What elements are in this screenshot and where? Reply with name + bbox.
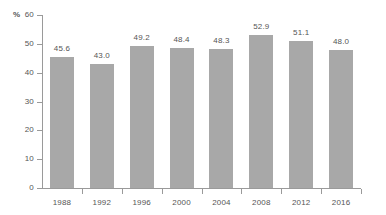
bar[interactable] [329,50,353,188]
y-axis-tick-label: 10 [4,155,34,163]
y-axis-tick-label: 40 [4,69,34,77]
bar-value-label: 48.3 [213,37,229,45]
x-axis-category-label: 2012 [292,198,311,207]
x-axis-tick [122,189,123,194]
x-axis-tick [202,189,203,194]
x-axis-category-label: 1988 [53,198,72,207]
x-axis-category-label: 2004 [212,198,231,207]
bar-value-label: 48.4 [173,36,189,44]
bar[interactable] [170,48,194,188]
bar-value-label: 45.6 [54,45,70,53]
bar-value-label: 48.0 [333,38,349,46]
bar[interactable] [209,49,233,188]
x-axis-category-label: 1992 [93,198,112,207]
plot-area: 45.643.049.248.448.352.951.148.0 [42,15,361,188]
bar[interactable] [249,35,273,188]
bar-value-label: 51.1 [293,29,309,37]
x-axis-category-label: 2016 [332,198,351,207]
x-axis-tick [321,189,322,194]
bar-value-label: 49.2 [134,34,150,42]
y-axis-tick [37,188,42,189]
x-axis-tick [281,189,282,194]
bar[interactable] [289,41,313,188]
bar-group: 52.9 [241,15,281,188]
bar-group: 48.4 [162,15,202,188]
x-axis-category-label: 2000 [172,198,191,207]
bar-group: 45.6 [42,15,82,188]
bar-group: 51.1 [281,15,321,188]
x-axis-tick [162,189,163,194]
y-axis-tick-label: 0 [4,184,34,192]
bar-group: 43.0 [82,15,122,188]
x-axis-tick [241,189,242,194]
x-axis-category-label: 1996 [132,198,151,207]
bar-value-label: 52.9 [253,23,269,31]
x-axis-tick [361,189,362,194]
bar-value-label: 43.0 [94,52,110,60]
bar[interactable] [50,57,74,188]
bar-group: 48.0 [321,15,361,188]
y-axis-tick-label: 50 [4,40,34,48]
x-axis-tick [82,189,83,194]
bar-group: 49.2 [122,15,162,188]
y-axis-tick-label: 60 [4,11,34,19]
bar[interactable] [90,64,114,188]
x-axis-category-label: 2008 [252,198,271,207]
y-axis-tick-label: 30 [4,98,34,106]
bar-group: 48.3 [202,15,242,188]
bar[interactable] [130,46,154,188]
bar-chart: % 0102030405060 45.643.049.248.448.352.9… [0,0,386,215]
y-axis-tick-label: 20 [4,126,34,134]
